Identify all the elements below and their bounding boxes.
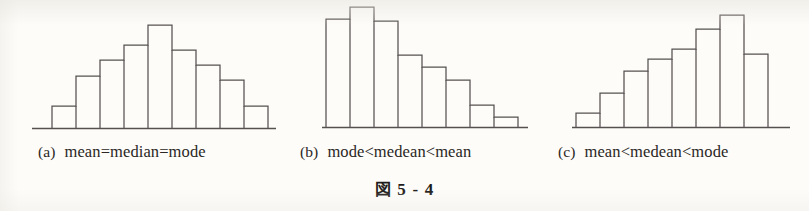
figure-page: (a)mean=median=mode (b)mode<medean<mean … [0,0,809,211]
caption-c-expression: mean<medean<mode [585,142,729,161]
caption-b: (b)mode<medean<mean [300,140,471,164]
caption-a-label: (a) [38,143,56,160]
histogram-c-svg [0,0,809,136]
figure-number-kanji: 図 [375,180,392,199]
caption-a: (a)mean=median=mode [38,140,206,164]
caption-b-label: (b) [300,143,318,160]
caption-b-expression: mode<medean<mean [327,142,471,161]
histogram-c [0,0,809,136]
caption-c-label: (c) [558,143,576,160]
caption-row: (a)mean=median=mode (b)mode<medean<mean … [0,140,809,166]
figure-number-text: 5 - 4 [397,180,434,199]
caption-c: (c)mean<medean<mode [558,140,728,164]
figure-number: 図 5 - 4 [0,176,809,200]
caption-a-expression: mean=median=mode [65,142,206,161]
